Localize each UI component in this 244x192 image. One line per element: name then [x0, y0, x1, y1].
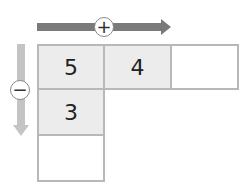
minus-icon: −	[10, 80, 30, 100]
cell-r1-c2: 4	[103, 44, 172, 90]
cell-r1-c3	[170, 44, 239, 90]
cell-r3-c1	[37, 134, 105, 182]
arrow-right-icon	[161, 19, 171, 35]
cell-r1-c1: 5	[37, 44, 105, 90]
plus-icon: +	[94, 17, 114, 37]
cell-r2-c1: 3	[37, 88, 105, 136]
arrow-down-icon	[13, 125, 29, 136]
